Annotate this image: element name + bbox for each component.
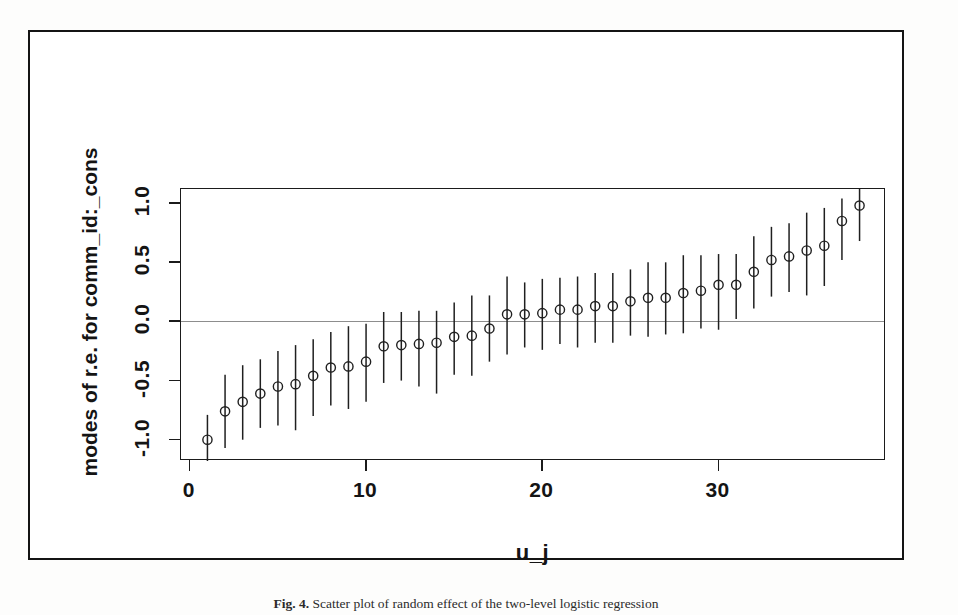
y-axis-tick-label: 1.0: [130, 175, 154, 227]
y-axis-tick-label: 0.0: [130, 293, 154, 345]
x-axis-title: u_j: [180, 540, 885, 566]
y-axis-tick: [169, 202, 180, 204]
x-axis-tick-label: 0: [159, 478, 219, 502]
figure-caption: Fig. 4. Scatter plot of random effect of…: [28, 596, 904, 615]
figure-frame: modes of r.e. for comm_id:_cons -1.0-0.5…: [28, 30, 904, 560]
y-axis-title: modes of r.e. for comm_id:_cons: [78, 147, 102, 476]
plot-area: [180, 188, 885, 460]
figure-page: modes of r.e. for comm_id:_cons -1.0-0.5…: [0, 0, 958, 615]
y-axis-title-wrap: modes of r.e. for comm_id:_cons: [70, 152, 110, 472]
caption-label: Fig. 4.: [274, 596, 310, 611]
x-axis-tick: [718, 460, 720, 471]
y-axis-tick: [169, 380, 180, 382]
y-axis-tick: [169, 261, 180, 263]
caption-text: Scatter plot of random effect of the two…: [313, 596, 659, 611]
x-axis-tick: [189, 460, 191, 471]
data-points-layer: [181, 189, 886, 461]
y-axis-tick-label: -0.5: [130, 353, 154, 405]
y-axis-tick-label: -1.0: [130, 412, 154, 464]
y-axis-tick: [169, 439, 180, 441]
x-axis-tick-label: 30: [688, 478, 748, 502]
y-axis-tick-label: 0.5: [130, 234, 154, 286]
x-axis-tick: [541, 460, 543, 471]
y-axis-tick: [169, 320, 180, 322]
x-axis-tick-label: 10: [335, 478, 395, 502]
x-axis-tick: [365, 460, 367, 471]
x-axis-tick-label: 20: [511, 478, 571, 502]
